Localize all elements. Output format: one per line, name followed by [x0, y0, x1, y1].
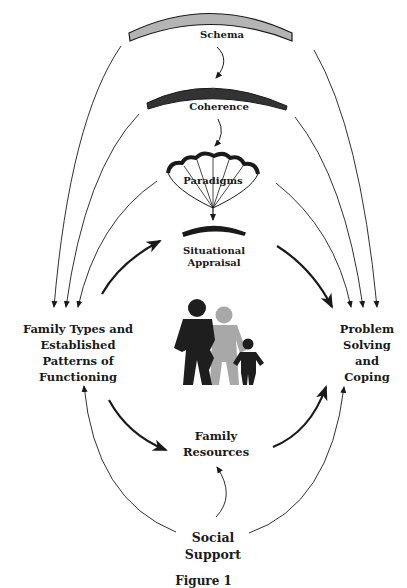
arrow-coherence-to-problem-solving	[295, 117, 363, 307]
node-schema: Schema	[186, 29, 258, 41]
node-family-resources: Family Resources	[166, 428, 266, 460]
family-resources-label-line2: Resources	[166, 444, 266, 460]
family-resources-label-line1: Family	[166, 428, 266, 444]
arrow-coherence-to-family-types	[66, 114, 139, 307]
node-situational-appraisal: Situational Appraisal	[164, 245, 264, 268]
arrow-family-types-to-resources	[109, 400, 166, 450]
arrow-family-types-to-appraisal	[102, 241, 160, 294]
paradigms-label: Paradigms	[183, 175, 242, 186]
problem-solving-label-line1: Problem	[327, 321, 407, 337]
arrow-schema-to-problem-solving	[314, 50, 377, 307]
social-support-label-line2: Support	[170, 546, 256, 563]
social-support-label-line1: Social	[170, 529, 256, 546]
arrow-resources-to-problem-solving	[273, 387, 326, 447]
arrow-paradigms-to-problem-solving	[276, 183, 351, 307]
arrow-social-support-to-problem-solving	[249, 387, 344, 533]
paradigms-parachute-icon	[168, 153, 258, 220]
problem-solving-label-line4: Coping	[327, 369, 407, 385]
family-types-label-line4: Functioning	[4, 369, 152, 385]
arrow-social-support-to-family-types	[84, 386, 176, 532]
node-problem-solving: Problem Solving and Coping	[327, 321, 407, 385]
node-paradigms: Paradigms	[178, 175, 248, 187]
arrow-schema-to-coherence	[216, 47, 224, 78]
schema-label: Schema	[200, 29, 244, 40]
node-family-types: Family Types and Established Patterns of…	[4, 321, 152, 385]
arrow-schema-to-family-types	[54, 46, 121, 307]
problem-solving-label-line3: and	[327, 353, 407, 369]
family-types-label-line3: Patterns of	[4, 353, 152, 369]
node-coherence: Coherence	[176, 101, 262, 113]
arrow-coherence-to-paradigms	[215, 119, 221, 146]
appraisal-arc-icon	[183, 227, 245, 237]
family-types-label-line2: Established	[4, 337, 152, 353]
appraisal-label-line1: Situational	[164, 245, 264, 257]
family-silhouette-icon	[174, 299, 264, 385]
appraisal-label-line2: Appraisal	[164, 257, 264, 269]
family-types-label-line1: Family Types and	[4, 321, 152, 337]
node-social-support: Social Support	[170, 529, 256, 563]
coherence-label: Coherence	[189, 101, 249, 112]
arrow-social-support-to-resources	[216, 467, 226, 517]
problem-solving-label-line2: Solving	[327, 337, 407, 353]
figure-caption: Figure 1	[0, 574, 407, 588]
arrow-appraisal-to-problem-solving	[277, 246, 332, 307]
